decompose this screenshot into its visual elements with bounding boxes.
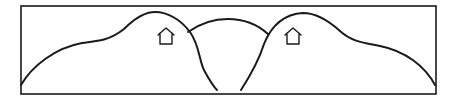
left-house-icon [158, 28, 174, 44]
right-hill-curve [241, 13, 435, 90]
left-hill-curve [21, 12, 217, 90]
diagram-canvas [0, 0, 455, 103]
hills-diagram [0, 0, 455, 103]
right-house-icon [285, 28, 301, 44]
middle-arc [188, 19, 268, 34]
